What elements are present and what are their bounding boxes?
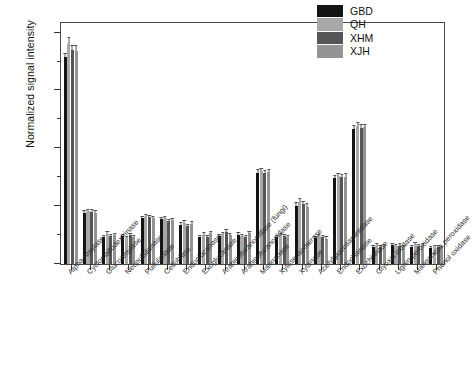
error-bar [91,210,92,212]
error-bar [353,126,354,129]
error-bar [307,204,308,206]
bar [75,51,78,264]
y-tick-minor [57,118,61,119]
error-bar [84,211,85,213]
error-bar [65,54,66,57]
error-bar [361,125,362,128]
x-axis-labels: Alpha AmylaseCyclomaltodextrinaseGlucoam… [0,268,461,374]
error-bar [257,170,258,172]
bar [67,44,70,264]
bar [352,129,355,264]
error-bar [226,230,227,232]
error-bar [299,199,300,202]
error-bar-cap [94,210,97,211]
error-bar-cap [286,235,289,236]
error-bar [341,175,342,177]
bar-group [179,23,193,264]
error-bar-cap [305,203,308,204]
error-bar [210,232,211,234]
legend-swatch [317,18,343,31]
error-bar [287,236,288,237]
error-bar-cap [106,231,109,232]
y-tick [54,147,61,148]
error-bar [114,234,115,235]
error-bar [392,244,393,245]
error-bar-cap [344,173,347,174]
bar-group [295,23,309,264]
bar-group [218,23,232,264]
error-bar [242,235,243,236]
error-bar [364,125,365,128]
error-bar [322,236,323,237]
error-bar [326,237,327,238]
error-bar [172,219,173,220]
y-tick [54,89,61,90]
error-bar [264,171,265,173]
chart-legend: GBDQHXHMXJH [317,4,373,58]
bar-group [333,23,347,264]
error-bar-cap [267,169,270,170]
bar [71,50,74,264]
legend-item[interactable]: QH [317,18,373,32]
legend-swatch [317,32,343,45]
bar-group [410,23,424,264]
error-bar-cap [113,233,116,234]
error-bar-cap [298,198,301,199]
y-axis-title: Normalized signal intensity [24,0,36,184]
bar [64,57,67,264]
bar-group [83,23,97,264]
legend-swatch [317,5,343,18]
bar-group [160,23,174,264]
plot-inner: 0100200300400 [61,23,444,264]
legend-label: QH [350,19,366,30]
y-tick [54,263,61,264]
error-bar [68,38,69,43]
y-tick [54,32,61,33]
y-tick-minor [57,234,61,235]
error-bar-cap [263,170,266,171]
error-bar-cap [248,231,251,232]
error-bar-cap [190,221,193,222]
error-bar [303,202,304,204]
error-bar-cap [202,232,205,233]
error-bar [95,211,96,213]
plot-area: 0100200300400 [60,22,445,265]
legend-label: XHM [350,33,373,44]
error-bar-cap [74,45,77,46]
error-bar [261,169,262,171]
error-bar [165,217,166,218]
error-bar [168,220,169,221]
error-bar-cap [225,229,228,230]
error-bar [245,236,246,237]
bar-group [237,23,251,264]
legend-item[interactable]: XJH [317,45,373,59]
error-bar-cap [183,220,186,221]
error-bar-cap [228,233,231,234]
error-bar [187,225,188,227]
bar-group [391,23,405,264]
error-bar [230,234,231,235]
bar-group [64,23,78,264]
legend-swatch [317,45,343,58]
error-bar-cap [209,231,212,232]
error-bar-cap [302,201,305,202]
legend-item[interactable]: GBD [317,4,373,18]
error-bar-cap [67,37,70,38]
error-bar [207,236,208,237]
error-bar [149,216,150,217]
error-bar [334,176,335,178]
error-bar [180,223,181,225]
error-bar [76,46,77,51]
error-bar [203,233,204,235]
error-bar [357,123,358,126]
error-bar [72,46,73,49]
legend-item[interactable]: XHM [317,31,373,45]
error-bar-cap [325,236,328,237]
error-bar [199,236,200,237]
error-bar-cap [163,216,166,217]
error-bar [411,246,412,247]
y-tick-minor [57,176,61,177]
error-bar-cap [151,216,154,217]
error-bar [107,232,108,234]
error-bar-cap [171,218,174,219]
